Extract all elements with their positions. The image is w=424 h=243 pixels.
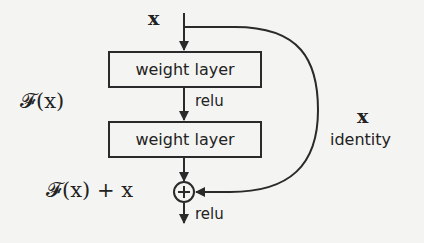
weight-layer-2-label: weight layer [135,130,234,149]
add-node-icon [174,182,194,202]
residual-function-label: 𝓕(x) [20,91,64,112]
relu-label-middle: relu [195,94,224,109]
shortcut-x-label: x [357,107,368,126]
input-label: x [148,9,159,28]
weight-layer-1: weight layer [108,51,262,88]
relu-label-output: relu [195,207,224,222]
weight-layer-2: weight layer [108,121,262,158]
sum-label: 𝓕(x) + x [46,180,133,201]
shortcut-identity-label: identity [330,132,391,148]
weight-layer-1-label: weight layer [135,60,234,79]
